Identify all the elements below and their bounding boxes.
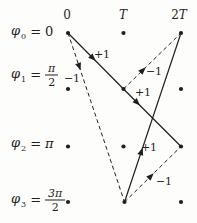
phase-value-fraction: 3π 2 <box>45 188 65 213</box>
phase-node-dot <box>121 31 125 35</box>
phase-node-dot <box>121 87 125 91</box>
trellis-edge-dashed <box>124 33 182 89</box>
phase-node-dot <box>66 144 70 148</box>
phase-value: 0 <box>45 25 53 39</box>
phase-label-phi0: φ0 = 0 <box>11 24 53 41</box>
phase-node-dot <box>179 200 183 204</box>
phase-trellis-figure: +1+1+1−1−1−1 0 T 2T φ0 = 0 φ1 = π 2 φ2 =… <box>0 0 197 223</box>
phase-label-phi1: φ1 = π 2 <box>11 63 58 88</box>
edge-arrow-icon <box>75 62 81 70</box>
phase-label-phi2: φ2 = π <box>11 136 54 153</box>
phase-value-fraction: π 2 <box>45 63 58 88</box>
equals-sign: = <box>30 68 41 82</box>
equals-sign: = <box>30 137 41 151</box>
phase-node-dot <box>66 200 70 204</box>
equals-sign: = <box>30 193 41 207</box>
phase-node-dot <box>122 200 126 204</box>
phase-node-dot <box>66 31 70 35</box>
edge-label: −1 <box>146 65 162 78</box>
time-label-0: 0 <box>63 8 71 22</box>
phase-node-dot <box>66 87 70 91</box>
edge-label: +1 <box>135 86 151 99</box>
phi-symbol: φ2 <box>11 136 26 153</box>
phase-node-dot <box>179 31 183 35</box>
phase-node-dot <box>179 87 183 91</box>
phi-symbol: φ3 <box>11 192 26 209</box>
phase-label-phi3: φ3 = 3π 2 <box>11 188 65 213</box>
edge-label: −1 <box>64 72 80 85</box>
edge-label: +1 <box>141 141 157 154</box>
edge-label: −1 <box>156 175 172 188</box>
equals-sign: = <box>30 25 41 39</box>
phase-node-dot <box>121 144 125 148</box>
edge-arrow-icon <box>146 173 153 180</box>
phase-node-dot <box>179 144 183 148</box>
phi-symbol: φ1 <box>11 67 26 84</box>
phi-symbol: φ0 <box>11 24 26 41</box>
phase-value: π <box>45 137 54 151</box>
time-label-T: T <box>119 8 127 22</box>
trellis-edge-solid <box>125 33 182 202</box>
time-label-2T: 2T <box>171 8 187 22</box>
edge-label: +1 <box>94 48 110 61</box>
